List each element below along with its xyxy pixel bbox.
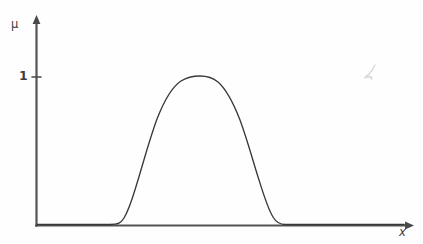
y-axis-label: μ <box>11 19 18 31</box>
x-axis-arrowhead <box>405 222 414 230</box>
x-axis-label: x <box>399 227 406 239</box>
y-axis-arrowhead <box>33 15 41 24</box>
y-axis-tick-label-1: 1 <box>19 70 28 83</box>
plot-svg <box>0 0 423 244</box>
membership-curve <box>37 76 404 225</box>
figure-canvas: μ x 1 <box>0 0 423 244</box>
